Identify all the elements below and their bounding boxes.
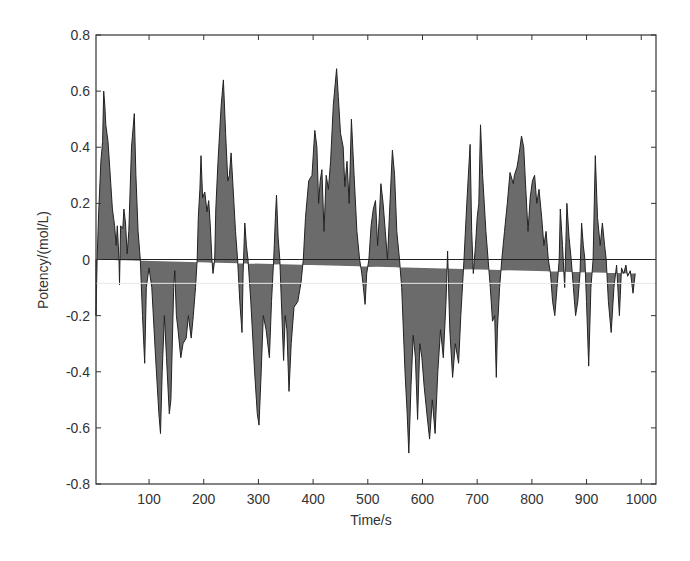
y-tick-label: 0.4 [71,139,91,155]
y-tick-label: 0.8 [71,27,91,43]
x-tick-label: 600 [411,491,435,507]
potency-area-chart: 1002003004005006007008009001000 -0.8-0.6… [0,0,690,561]
y-tick-label: -0.8 [66,476,90,492]
x-axis-ticks: 1002003004005006007008009001000 [137,35,657,507]
y-tick-label: 0 [82,252,90,268]
y-tick-label: -0.6 [66,420,90,436]
x-tick-label: 400 [301,491,325,507]
x-tick-label: 500 [356,491,380,507]
x-axis-label: Time/s [350,512,391,528]
plot-area [96,69,656,453]
y-axis-label: Potency/(mol/L) [35,211,51,309]
y-tick-label: -0.2 [66,308,90,324]
x-tick-label: 1000 [626,491,657,507]
x-tick-label: 300 [247,491,271,507]
y-tick-label: 0.2 [71,195,91,211]
x-tick-label: 900 [575,491,599,507]
potency-area-series [96,69,635,453]
x-tick-label: 700 [465,491,489,507]
y-tick-label: -0.4 [66,364,90,380]
y-tick-label: 0.6 [71,83,91,99]
x-tick-label: 100 [137,491,161,507]
x-tick-label: 800 [520,491,544,507]
x-tick-label: 200 [192,491,216,507]
